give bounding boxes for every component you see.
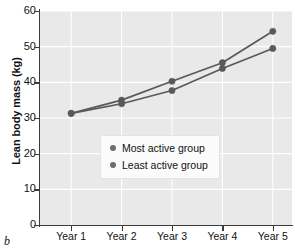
data-point-marker: [270, 28, 276, 34]
y-tick-mark: [34, 11, 40, 12]
y-tick-mark: [34, 189, 40, 190]
x-tick-mark: [71, 226, 72, 231]
x-axis-line: [38, 225, 293, 226]
x-tick-label: Year 5: [241, 231, 295, 242]
y-tick-label: 50: [14, 41, 36, 52]
y-tick-label: 20: [14, 148, 36, 159]
x-tick-mark: [122, 226, 123, 231]
plot-area: [40, 11, 292, 225]
y-tick-mark: [34, 154, 40, 155]
legend-marker-dot-icon: [110, 145, 116, 151]
data-point-marker: [68, 110, 74, 116]
y-tick-label: 30: [14, 112, 36, 123]
legend-item-most-active: Most active group: [110, 140, 205, 156]
data-point-marker: [119, 101, 125, 107]
legend-marker-dot-icon: [110, 162, 116, 168]
legend-label: Least active group: [122, 159, 208, 171]
data-point-marker: [219, 60, 225, 66]
x-tick-mark: [222, 226, 223, 231]
legend-item-least-active: Least active group: [110, 157, 208, 173]
y-tick-label: 40: [14, 76, 36, 87]
x-tick-mark: [273, 226, 274, 231]
x-axis-tick-labels: Year 1Year 2Year 3Year 4Year 5: [0, 231, 295, 247]
y-tick-mark: [34, 82, 40, 83]
y-axis-tick-labels: 0102030405060: [12, 0, 36, 250]
y-tick-label: 60: [14, 5, 36, 16]
x-tick-mark: [172, 226, 173, 231]
chart-canvas: [40, 11, 292, 225]
panel-letter: b: [4, 234, 10, 249]
y-tick-label: 10: [14, 183, 36, 194]
legend-label: Most active group: [122, 142, 205, 154]
y-tick-mark: [34, 118, 40, 119]
y-tick-mark: [34, 47, 40, 48]
data-point-marker: [169, 87, 175, 93]
y-tick-label: 0: [14, 219, 36, 230]
data-point-marker: [270, 45, 276, 51]
data-point-marker: [219, 65, 225, 71]
figure-panel-b: Lean body mass (kg) 0102030405060 Year 1…: [0, 0, 295, 250]
chart-legend: Most active group Least active group: [100, 135, 220, 179]
data-point-marker: [169, 78, 175, 84]
y-tick-mark: [34, 225, 40, 226]
